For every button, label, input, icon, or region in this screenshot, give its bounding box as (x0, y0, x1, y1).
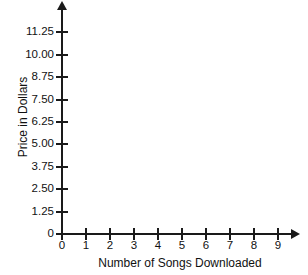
x-axis-tick-label: 6 (196, 240, 216, 252)
y-axis-tick (56, 211, 68, 213)
plot-area (63, 8, 293, 233)
y-axis-tick (56, 188, 68, 190)
x-axis-tick-label: 0 (52, 240, 72, 252)
y-axis-tick-label: 6.25 (32, 116, 54, 128)
y-axis-tick-label: 11.25 (26, 26, 54, 38)
y-axis-tick (56, 99, 68, 101)
y-axis-tick-label: 2.50 (32, 183, 54, 195)
x-axis-tick-label: 4 (148, 240, 168, 252)
y-axis-tick-label: 0 (48, 228, 54, 240)
y-axis-tick-label: 1.25 (32, 206, 54, 218)
y-axis-tick (56, 166, 68, 168)
y-axis-tick (56, 31, 68, 33)
y-axis-tick (56, 121, 68, 123)
x-axis-line (61, 233, 293, 235)
x-axis-tick-label: 9 (268, 240, 288, 252)
y-axis-tick-label: 5.00 (32, 138, 54, 150)
x-axis-tick-label: 2 (100, 240, 120, 252)
x-axis-tick-label: 8 (244, 240, 264, 252)
y-axis-tick (56, 76, 68, 78)
x-axis-tick-label: 7 (220, 240, 240, 252)
y-axis-title: Price in Dollars (16, 47, 30, 187)
x-axis-tick-label: 1 (76, 240, 96, 252)
chart-container: 01.252.503.755.006.257.508.7510.0011.25 … (0, 0, 308, 275)
y-axis-tick (56, 143, 68, 145)
x-axis-title: Number of Songs Downloaded (0, 256, 308, 270)
y-axis-tick-label: 8.75 (32, 71, 54, 83)
y-axis-tick-label: 7.50 (32, 94, 54, 106)
x-axis-tick-label: 3 (124, 240, 144, 252)
x-axis-tick-label: 5 (172, 240, 192, 252)
y-axis-tick-label: 3.75 (32, 161, 54, 173)
y-axis-tick (56, 54, 68, 56)
